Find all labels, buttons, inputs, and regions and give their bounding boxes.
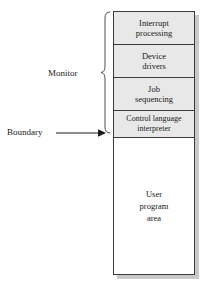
memory-layout-diagram: Interrupt processing Device drivers Job … [0, 0, 218, 290]
memory-block-label: User program area [138, 188, 171, 224]
memory-block-label: Device drivers [140, 51, 168, 72]
curly-brace-icon [100, 11, 111, 134]
memory-block-label: Job sequencing [133, 84, 175, 105]
boundary-label: Boundary [7, 127, 43, 137]
memory-column: Interrupt processing Device drivers Job … [113, 11, 195, 275]
monitor-label: Monitor [48, 68, 78, 78]
arrow-right-icon [56, 126, 106, 140]
memory-block-label: Control language interpreter [124, 114, 183, 134]
memory-block-user-program-area: User program area [113, 137, 195, 275]
memory-block-control-language-interpreter: Control language interpreter [113, 110, 195, 138]
memory-block-job-sequencing: Job sequencing [113, 77, 195, 111]
memory-block-interrupt-processing: Interrupt processing [113, 11, 195, 45]
memory-block-label: Interrupt processing [134, 18, 174, 39]
memory-block-device-drivers: Device drivers [113, 44, 195, 78]
